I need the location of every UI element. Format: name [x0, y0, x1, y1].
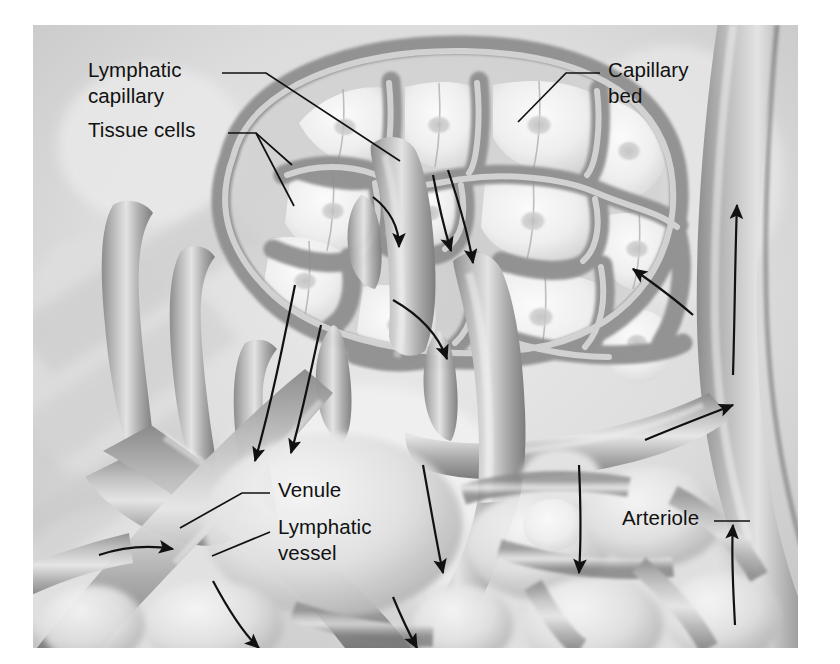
label-venule-line1: Venule: [278, 478, 341, 503]
label-lymphatic-vessel-line1: Lymphatic: [278, 515, 372, 540]
label-lymphatic-capillary-line1: Lymphatic: [88, 58, 182, 83]
label-capillary-bed-line2: bed: [608, 84, 643, 109]
label-arteriole-line1: Arteriole: [622, 506, 699, 531]
label-arteriole: Arteriole: [0, 0, 23, 74]
label-lymphatic-vessel-line2: vessel: [278, 541, 337, 566]
figure-canvas: Lymphatic capillary Tissue cells Capilla…: [0, 0, 840, 664]
label-tissue-cells-line1: Tissue cells: [88, 118, 196, 143]
label-capillary-bed-line1: Capillary: [608, 58, 689, 83]
label-lymphatic-capillary-line2: capillary: [88, 84, 164, 109]
